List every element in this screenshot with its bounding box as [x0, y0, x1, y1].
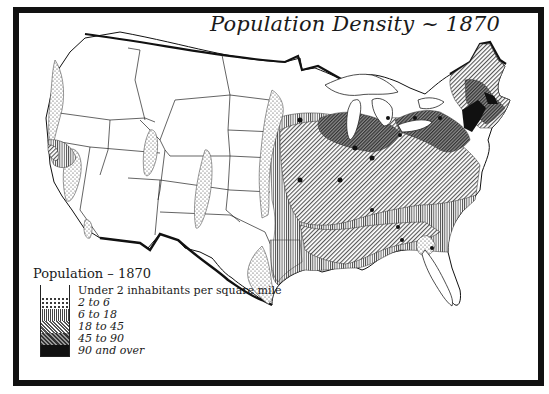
legend-item: 2 to 6 — [30, 297, 281, 309]
legend-swatch-diagonal-lines — [40, 321, 70, 333]
legend-swatch-dots — [40, 297, 70, 309]
legend-item: 45 to 90 — [30, 333, 281, 345]
legend-swatch-vertical-lines — [40, 309, 70, 321]
legend-item: 18 to 45 — [30, 321, 281, 333]
legend-item: 90 and over — [30, 345, 281, 357]
legend-label: 90 and over — [78, 345, 144, 357]
map-title: Population Density ~ 1870 — [210, 12, 500, 36]
legend-title: Population – 1870 — [33, 266, 281, 281]
legend: Population – 1870 Under 2 inhabitants pe… — [30, 266, 281, 357]
legend-swatch-dense-crosshatch — [40, 333, 70, 345]
legend-swatch-blank — [40, 285, 70, 297]
legend-item: 6 to 18 — [30, 309, 281, 321]
legend-item: Under 2 inhabitants per square mile — [30, 285, 281, 297]
legend-swatch-solid — [40, 345, 70, 357]
